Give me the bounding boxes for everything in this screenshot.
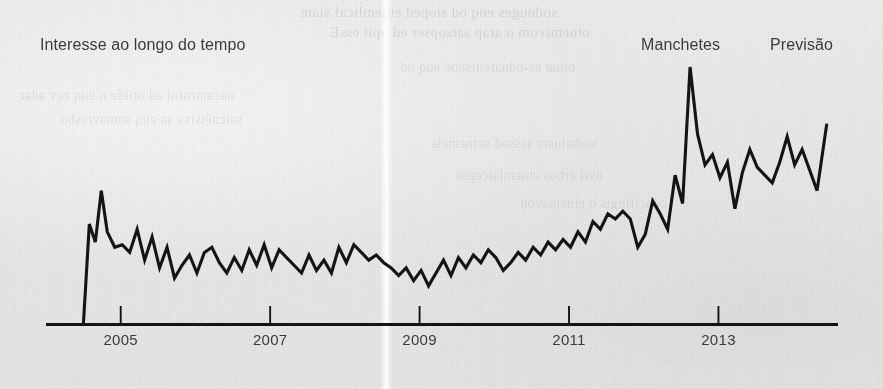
x-axis-tick-label: 2009 [402,331,437,348]
x-axis-tick-label: 2013 [701,331,736,348]
series-line-manchetes [46,67,827,325]
x-axis-tick-label: 2005 [103,331,138,348]
x-axis-tick-label: 2011 [552,331,585,348]
x-axis-tick-label: 2007 [253,331,288,348]
scanned-chart-page: sodnuges euq od sioped etnemlicaf siam o… [0,0,883,389]
x-axis-ticks [121,306,719,324]
